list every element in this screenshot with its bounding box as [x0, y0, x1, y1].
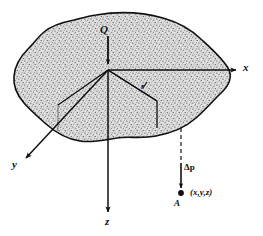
- delta-p-label: Δp: [184, 163, 195, 172]
- axis-label-y: y: [12, 159, 17, 170]
- charge-label-q: Q: [100, 24, 108, 35]
- charged-body: [14, 13, 230, 142]
- charged-body-stipple-overlay: [14, 13, 230, 142]
- axis-label-z: z: [105, 216, 109, 227]
- vector-label-r: r: [141, 82, 145, 91]
- axis-label-x: x: [243, 62, 249, 73]
- diagram-canvas: [0, 0, 263, 236]
- figure-container: Q x y z r Δp A (x,y,z): [0, 0, 263, 236]
- point-coordinates-label: (x,y,z): [190, 188, 212, 197]
- field-point-a-dot: [178, 190, 184, 196]
- point-label-a: A: [174, 199, 180, 208]
